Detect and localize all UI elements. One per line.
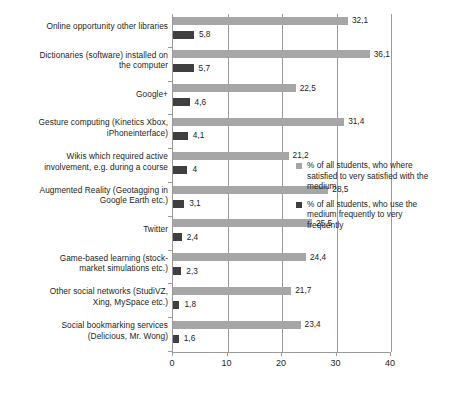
x-axis-tick [172,352,173,356]
bar-frequent [173,200,184,208]
bar-satisfied [173,219,312,227]
bar-satisfied [173,152,289,160]
bar-value-satisfied: 22,5 [300,84,316,93]
category-label-line: (Delicious, Mr. Wong) [0,331,168,341]
bar-value-frequent: 3,1 [189,199,201,208]
bar-value-frequent: 2,3 [186,267,198,276]
bar-value-frequent: 4,1 [193,131,205,140]
legend-label-line: medium [307,181,464,192]
chart-row: Social bookmarking services(Delicious, M… [0,318,470,352]
chart-row: Dictionaries (software) installed onthe … [0,48,470,82]
bar-value-satisfied: 32,1 [352,16,368,25]
category-label: Twitter [0,224,168,234]
bar-frequent [173,335,179,343]
bar-value-frequent: 2,4 [187,233,199,242]
bar-frequent [173,267,181,275]
bar-frequent [173,64,194,72]
category-label: Game-based learning (stock-market simula… [0,253,168,274]
bar-satisfied [173,287,291,295]
bar-value-frequent: 5,8 [199,30,211,39]
bar-value-satisfied: 21,2 [293,151,309,160]
chart-legend: % of all students, who wheresatisfied to… [296,160,464,238]
bar-satisfied [173,253,306,261]
bar-value-frequent: 1,6 [184,334,196,343]
bar-satisfied [173,50,370,58]
bar-value-satisfied: 23,4 [305,320,321,329]
bar-value-satisfied: 21,7 [295,286,311,295]
x-axis-tick [281,352,282,356]
category-label: Other social networks (StudiVZ,Xing, MyS… [0,286,168,307]
x-axis-tick [227,352,228,356]
legend-label-line: frequently [307,220,464,231]
bar-value-frequent: 5,7 [199,64,211,73]
x-axis-tick-label: 10 [221,358,231,368]
category-label-line: Game-based learning (stock- [0,253,168,263]
category-label-line: iPhoneinterface) [0,128,168,138]
bar-satisfied [173,321,301,329]
bar-value-frequent: 4,6 [195,98,207,107]
bar-frequent [173,132,188,140]
legend-swatch-icon [296,163,302,169]
horizontal-bar-chart: Online opportunity other libraries32,15,… [0,0,470,393]
legend-item[interactable]: % of all students, who use themedium fre… [296,199,464,231]
bar-value-satisfied: 24,4 [310,253,326,262]
category-label-line: Gesture computing (Kinetics Xbox, [0,117,168,127]
category-label-line: Google Earth etc.) [0,195,168,205]
legend-item[interactable]: % of all students, who wheresatisfied to… [296,160,464,192]
bar-value-frequent: 4 [192,165,197,174]
chart-row: Google+22,54,6 [0,82,470,116]
bar-satisfied [173,118,344,126]
x-axis-tick [390,352,391,356]
category-label: Online opportunity other libraries [0,21,168,31]
legend-label-line: medium frequently to very [307,209,464,220]
category-label-line: Online opportunity other libraries [0,21,168,31]
bar-frequent [173,166,187,174]
bar-value-satisfied: 36,1 [374,50,390,59]
category-label-line: Augmented Reality (Geotagging in [0,185,168,195]
category-label-line: involvement, e.g. during a course [0,162,168,172]
category-label: Augmented Reality (Geotagging inGoogle E… [0,185,168,206]
category-label-line: Other social networks (StudiVZ, [0,286,168,296]
bar-satisfied [173,84,296,92]
chart-row: Other social networks (StudiVZ,Xing, MyS… [0,284,470,318]
x-axis-tick-label: 40 [385,358,395,368]
x-axis-tick-label: 30 [330,358,340,368]
bar-satisfied [173,17,348,25]
category-label-line: Social bookmarking services [0,320,168,330]
category-label-line: Wikis which required active [0,151,168,161]
category-label-line: Twitter [0,224,168,234]
bar-frequent [173,31,194,39]
category-label-line: Xing, MySpace etc.) [0,297,168,307]
category-label-line: the computer [0,60,168,70]
bar-frequent [173,98,190,106]
chart-row: Online opportunity other libraries32,15,… [0,14,470,48]
category-label: Wikis which required activeinvolvement, … [0,151,168,172]
chart-row: Game-based learning (stock-market simula… [0,251,470,285]
bar-frequent [173,301,179,309]
legend-swatch-icon [296,202,302,208]
category-label: Dictionaries (software) installed onthe … [0,50,168,71]
x-axis-tick-label: 0 [169,358,174,368]
legend-label-line: % of all students, who use the [307,199,464,210]
x-axis-tick-label: 20 [276,358,286,368]
x-axis-tick [336,352,337,356]
category-label-line: Dictionaries (software) installed on [0,50,168,60]
legend-label-line: % of all students, who where [307,160,464,171]
chart-row: Gesture computing (Kinetics Xbox,iPhonei… [0,115,470,149]
bar-value-satisfied: 31,4 [348,117,364,126]
category-label-line: Google+ [0,89,168,99]
bar-value-frequent: 1,8 [184,300,196,309]
category-label: Google+ [0,89,168,99]
category-label: Gesture computing (Kinetics Xbox,iPhonei… [0,117,168,138]
category-label-line: market simulations etc.) [0,263,168,273]
legend-label-line: satisfied to very satisfied with the [307,171,464,182]
category-label: Social bookmarking services(Delicious, M… [0,320,168,341]
bar-frequent [173,233,182,241]
